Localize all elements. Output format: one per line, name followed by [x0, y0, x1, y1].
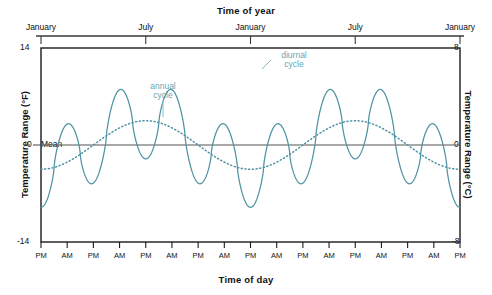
bottom-axis-ticks	[41, 242, 460, 248]
diurnal-cycle-leader-line	[262, 60, 271, 69]
chart-plot-svg	[0, 0, 492, 295]
diurnal-cycle-curve	[41, 89, 460, 207]
top-axis-ticks	[41, 36, 460, 44]
chart-figure: Time of year Temperature Range (°F) Temp…	[0, 0, 492, 295]
